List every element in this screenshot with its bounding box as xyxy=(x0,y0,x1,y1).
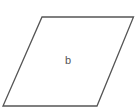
diagram-canvas: b xyxy=(0,0,135,111)
shape-label: b xyxy=(65,54,71,66)
